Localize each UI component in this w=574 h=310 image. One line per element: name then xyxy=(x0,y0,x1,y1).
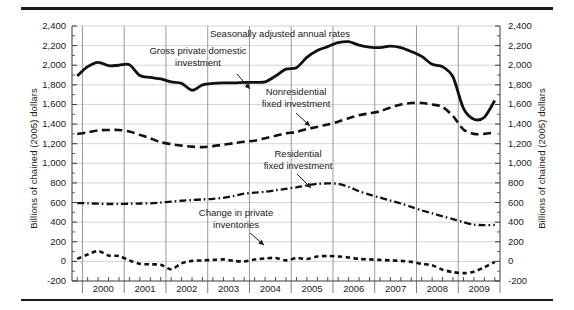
y-tick-label-left: 1,400 xyxy=(32,119,66,129)
x-tick-label-2009: 2009 xyxy=(456,284,502,294)
annotation-nonresidential-fixed-investment: Nonresidential fixed investment xyxy=(238,86,354,109)
figure-container: Billions of chained (2005) dollars Billi… xyxy=(0,0,574,310)
x-tick-label-2008: 2008 xyxy=(414,284,460,294)
annotation-res-line1: Residential xyxy=(240,148,356,160)
x-tick-label-2004: 2004 xyxy=(247,284,293,294)
y-tick-label-right: 1,800 xyxy=(508,80,548,90)
x-tick-label-2006: 2006 xyxy=(331,284,377,294)
annotation-change-in-private-inventories: Change in private inventories xyxy=(178,207,294,230)
annotation-gross-line2: investment xyxy=(118,57,278,69)
annotation-nonres-line2: fixed investment xyxy=(238,98,354,110)
right-axis-ticks xyxy=(495,26,500,281)
y-tick-label-left: 1,200 xyxy=(32,139,66,149)
series-line-3 xyxy=(77,251,495,273)
y-tick-label-right: 200 xyxy=(508,237,548,247)
y-tick-label-right: 0 xyxy=(508,256,548,266)
annotation-note-text: Seasonally adjusted annual rates xyxy=(210,28,350,39)
y-tick-label-right: -200 xyxy=(508,276,548,286)
y-tick-label-right: 1,000 xyxy=(508,158,548,168)
y-tick-label-left: 200 xyxy=(32,237,66,247)
x-tick-label-2007: 2007 xyxy=(373,284,419,294)
y-tick-label-right: 1,600 xyxy=(508,99,548,109)
annotation-gross-private-domestic-investment: Gross private domestic investment xyxy=(118,45,278,68)
annotation-inv-line2: inventories xyxy=(178,219,294,231)
y-tick-label-left: 1,600 xyxy=(32,99,66,109)
y-tick-label-left: 400 xyxy=(32,217,66,227)
left-axis-ticks xyxy=(72,26,77,281)
x-tick-label-2003: 2003 xyxy=(206,284,252,294)
x-tick-label-2001: 2001 xyxy=(122,284,168,294)
annotation-res-line2: fixed investment xyxy=(240,160,356,172)
y-tick-label-right: 2,200 xyxy=(508,41,548,51)
annotation-gross-line1: Gross private domestic xyxy=(118,45,278,57)
x-tick-label-2000: 2000 xyxy=(80,284,126,294)
annotation-inv-line1: Change in private xyxy=(178,207,294,219)
y-tick-label-right: 1,400 xyxy=(508,119,548,129)
y-tick-label-left: 2,000 xyxy=(32,60,66,70)
y-tick-label-right: 400 xyxy=(508,217,548,227)
x-tick-label-2005: 2005 xyxy=(289,284,335,294)
annotation-nonres-line1: Nonresidential xyxy=(238,86,354,98)
y-tick-label-left: 2,200 xyxy=(32,41,66,51)
annotation-seasonally-adjusted: Seasonally adjusted annual rates xyxy=(210,28,350,40)
y-tick-label-left: 800 xyxy=(32,178,66,188)
y-tick-label-right: 600 xyxy=(508,198,548,208)
y-tick-label-left: 600 xyxy=(32,198,66,208)
y-tick-label-right: 800 xyxy=(508,178,548,188)
y-tick-label-left: -200 xyxy=(32,276,66,286)
x-tick-label-2002: 2002 xyxy=(164,284,210,294)
annotation-residential-fixed-investment: Residential fixed investment xyxy=(240,148,356,171)
y-tick-label-right: 2,000 xyxy=(508,60,548,70)
series-line-1 xyxy=(77,103,495,147)
y-tick-label-left: 1,000 xyxy=(32,158,66,168)
y-tick-label-right: 1,200 xyxy=(508,139,548,149)
leader-inventories xyxy=(250,233,264,245)
y-tick-label-right: 2,400 xyxy=(508,21,548,31)
y-tick-label-left: 1,800 xyxy=(32,80,66,90)
y-tick-label-left: 2,400 xyxy=(32,21,66,31)
y-tick-label-left: 0 xyxy=(32,256,66,266)
